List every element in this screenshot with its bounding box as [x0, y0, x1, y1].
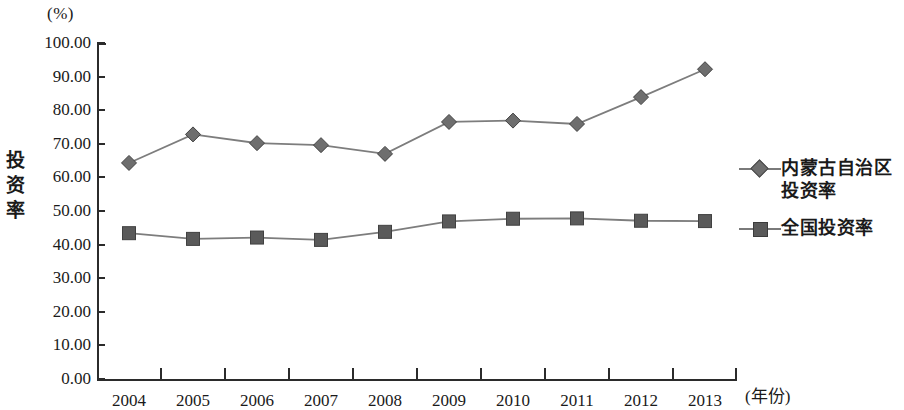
diamond-marker [314, 138, 329, 153]
legend-item-inner-mongolia[interactable]: 内蒙古自治区 投资率 [739, 157, 904, 203]
y-tick-label: 0.00 [0, 370, 91, 387]
y-axis-unit-caption: (%) [47, 4, 74, 24]
x-axis-caption: (年份) [745, 382, 790, 407]
diamond-marker [250, 136, 265, 151]
y-tick-label: 60.00 [0, 168, 91, 185]
square-marker [699, 215, 712, 228]
y-tick-label: 70.00 [0, 135, 91, 152]
diamond-marker-icon [739, 158, 781, 180]
square-marker [635, 214, 648, 227]
y-tick-label: 50.00 [0, 202, 91, 219]
diamond-marker [442, 114, 457, 129]
square-marker [187, 232, 200, 245]
y-tick-label: 20.00 [0, 303, 91, 320]
chart-legend: 内蒙古自治区 投资率 全国投资率 [739, 157, 904, 254]
diamond-marker [570, 116, 585, 131]
square-marker [379, 225, 392, 238]
y-tick-label: 40.00 [0, 236, 91, 253]
series-line [129, 218, 705, 240]
investment-rate-line-chart: (%) 投 资 率 100.0090.0080.0070.0060.0050.0… [0, 0, 904, 410]
data-series-layer [97, 43, 737, 380]
square-marker [571, 212, 584, 225]
square-marker [123, 227, 136, 240]
y-tick-label: 10.00 [0, 336, 91, 353]
diamond-marker [122, 155, 137, 170]
legend-item-national[interactable]: 全国投资率 [739, 217, 904, 240]
y-tick-label: 100.00 [0, 34, 91, 51]
series-1 [122, 62, 713, 171]
square-marker [251, 231, 264, 244]
square-marker [443, 215, 456, 228]
series-2 [123, 212, 712, 247]
y-tick-label: 30.00 [0, 269, 91, 286]
square-marker [507, 212, 520, 225]
diamond-marker [634, 90, 649, 105]
diamond-marker [378, 146, 393, 161]
plot-area: 100.0090.0080.0070.0060.0050.0040.0030.0… [97, 43, 737, 379]
square-marker-icon [739, 218, 781, 240]
diamond-marker [698, 62, 713, 77]
square-marker [315, 233, 328, 246]
y-tick-label: 80.00 [0, 101, 91, 118]
diamond-marker [506, 113, 521, 128]
legend-label-inner-mongolia: 内蒙古自治区 投资率 [781, 157, 892, 203]
series-line [129, 69, 705, 163]
y-tick-label: 90.00 [0, 68, 91, 85]
x-tick-label: 2013 [665, 391, 745, 410]
diamond-marker [186, 127, 201, 142]
legend-label-national: 全国投资率 [781, 217, 874, 240]
